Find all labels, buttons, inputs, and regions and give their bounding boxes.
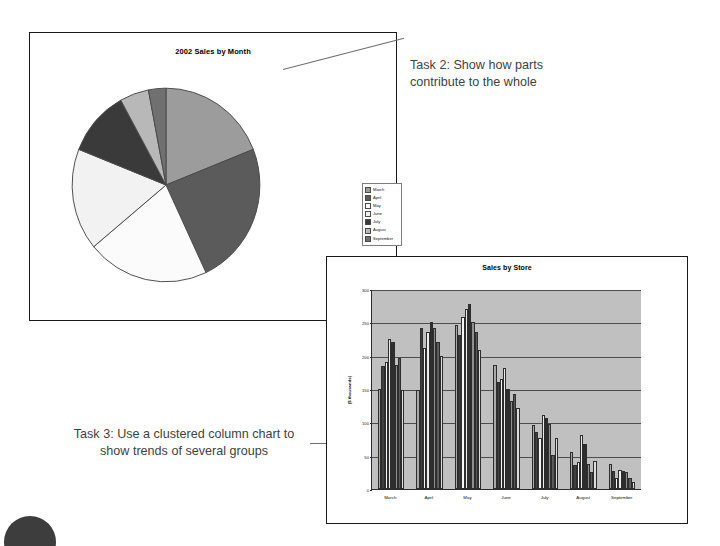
legend-swatch-icon — [365, 219, 371, 225]
legend-item-label: August — [373, 228, 386, 232]
legend-item: March — [365, 186, 399, 194]
decorative-circle — [4, 516, 56, 546]
bar — [632, 482, 635, 489]
bar-chart-title: Sales by Store — [327, 264, 687, 271]
y-tick-label: 150 — [362, 388, 369, 393]
legend-item-label: April — [373, 196, 381, 200]
legend-item-label: June — [373, 212, 382, 216]
bar — [478, 350, 481, 489]
bar-chart-panel: Sales by Store ($ thousands) 05010015020… — [326, 256, 688, 524]
y-tick-label: 50 — [364, 454, 369, 459]
x-tick-label: July — [525, 495, 564, 500]
bar — [593, 461, 596, 489]
legend-item-label: May — [373, 204, 381, 208]
slide-canvas: 2002 Sales by Month MarchAprilMayJuneJul… — [0, 0, 720, 546]
legend-swatch-icon — [365, 203, 371, 209]
bar-cluster — [372, 290, 410, 489]
task2-annotation: Task 2: Show how parts contribute to the… — [410, 57, 590, 90]
legend-item: July — [365, 218, 399, 226]
pie-svg — [71, 87, 261, 283]
x-tick-label: June — [487, 495, 526, 500]
pie-chart-legend: MarchAprilMayJuneJulyAugustSeptember — [362, 183, 402, 246]
y-tick-label: 100 — [362, 421, 369, 426]
bar — [440, 356, 443, 489]
legend-item: May — [365, 202, 399, 210]
x-tick-label: April — [410, 495, 449, 500]
y-tick-label: 250 — [362, 321, 369, 326]
bar — [555, 438, 558, 489]
legend-item-label: March — [373, 188, 384, 192]
bar-cluster — [487, 290, 525, 489]
y-tick-label: 300 — [362, 288, 369, 293]
x-tick-label: May — [448, 495, 487, 500]
legend-item: September — [365, 235, 399, 243]
bar-clusters — [372, 290, 641, 489]
legend-item-label: September — [373, 237, 393, 241]
bar — [401, 390, 404, 489]
bar-cluster — [410, 290, 448, 489]
y-tick-label: 200 — [362, 354, 369, 359]
legend-item: June — [365, 210, 399, 218]
bar-cluster — [564, 290, 602, 489]
bar-cluster — [603, 290, 641, 489]
legend-swatch-icon — [365, 211, 371, 217]
y-axis-label: ($ thousands) — [347, 376, 352, 404]
legend-item-label: July — [373, 220, 380, 224]
bar-cluster — [449, 290, 487, 489]
pie-chart-graphic — [71, 87, 261, 283]
bar-cluster — [526, 290, 564, 489]
task3-annotation: Task 3: Use a clustered column chart to … — [60, 426, 308, 459]
x-tick-label: September — [602, 495, 641, 500]
x-axis-labels: MarchAprilMayJuneJulyAugustSeptember — [371, 495, 641, 500]
legend-swatch-icon — [365, 236, 371, 242]
bar — [516, 408, 519, 489]
legend-swatch-icon — [365, 187, 371, 193]
legend-item: August — [365, 226, 399, 234]
x-tick-label: March — [371, 495, 410, 500]
y-tick-mark — [370, 490, 373, 491]
legend-swatch-icon — [365, 228, 371, 234]
x-tick-label: August — [564, 495, 603, 500]
legend-swatch-icon — [365, 195, 371, 201]
bar-chart-plot-area: 050100150200250300 — [371, 290, 641, 490]
legend-item: April — [365, 194, 399, 202]
